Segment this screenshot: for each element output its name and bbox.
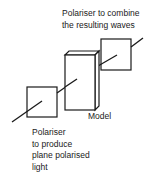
top-polariser-label: Polariser to combine the resulting waves bbox=[62, 8, 139, 31]
label-line: Polariser to combine bbox=[62, 8, 139, 20]
light-path-out bbox=[131, 38, 143, 47]
label-line: plane polarised bbox=[32, 150, 90, 162]
label-line: to produce bbox=[32, 139, 90, 151]
label-line: light bbox=[32, 162, 90, 174]
label-line: Polariser bbox=[32, 127, 90, 139]
bottom-polariser-label: Polariser to produce plane polarised lig… bbox=[32, 127, 90, 173]
top-polariser bbox=[101, 39, 131, 70]
model-box-front bbox=[65, 55, 95, 110]
bottom-polariser bbox=[27, 87, 57, 117]
model-label: Model bbox=[88, 111, 111, 123]
label-line: the resulting waves bbox=[62, 20, 139, 32]
